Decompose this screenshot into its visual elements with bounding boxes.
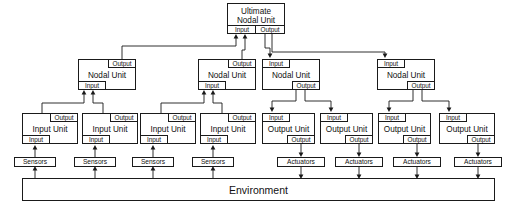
nodal-unit-3-input-port[interactable]: Input (262, 59, 290, 68)
ultimate-nodal-unit-title-line1: Ultimate (228, 7, 284, 16)
output-unit-4[interactable]: Output Unit Input Output (439, 113, 495, 144)
sensors-4[interactable]: Sensors (192, 157, 234, 167)
nodal-unit-2-title: Nodal Unit (199, 71, 255, 80)
ultimate-nodal-unit-title-line2: Nodal Unit (228, 16, 284, 25)
output-unit-3-title: Output Unit (379, 125, 430, 134)
nodal-unit-4-input-port[interactable]: Input (377, 59, 405, 68)
ultimate-nodal-unit[interactable]: Ultimate Nodal Unit Input Output (227, 3, 285, 34)
input-unit-1-output-port[interactable]: Output (50, 113, 78, 122)
output-unit-2-output-port[interactable]: Output (345, 135, 373, 144)
input-unit-3[interactable]: Input Unit Output Input (140, 113, 196, 144)
nodal-unit-4[interactable]: Nodal Unit Input Output (377, 59, 435, 90)
input-unit-3-title: Input Unit (141, 125, 195, 134)
sensors-3[interactable]: Sensors (132, 157, 174, 167)
actuators-3[interactable]: Actuators (393, 157, 441, 167)
output-unit-1[interactable]: Output Unit Input Output (262, 113, 315, 144)
input-unit-1-input-port[interactable]: Input (22, 135, 50, 144)
output-unit-3[interactable]: Output Unit Input Output (378, 113, 431, 144)
input-unit-3-output-port[interactable]: Output (168, 113, 196, 122)
nodal-unit-3[interactable]: Nodal Unit Input Output (262, 59, 320, 90)
input-unit-2-output-port[interactable]: Output (110, 113, 138, 122)
actuators-4[interactable]: Actuators (454, 157, 502, 167)
output-unit-4-input-port[interactable]: Input (439, 113, 467, 122)
actuators-1[interactable]: Actuators (277, 157, 325, 167)
input-unit-3-input-port[interactable]: Input (140, 135, 168, 144)
output-unit-1-output-port[interactable]: Output (287, 135, 315, 144)
output-unit-1-title: Output Unit (263, 125, 314, 134)
input-unit-1[interactable]: Input Unit Output Input (22, 113, 78, 144)
input-unit-2-input-port[interactable]: Input (82, 135, 110, 144)
nodal-unit-1-title: Nodal Unit (79, 71, 135, 80)
ultimate-nodal-unit-output-port[interactable]: Output (255, 25, 285, 34)
nodal-unit-4-title: Nodal Unit (378, 71, 434, 80)
nodal-unit-3-output-port[interactable]: Output (292, 81, 320, 90)
output-unit-2-input-port[interactable]: Input (320, 113, 348, 122)
output-unit-3-input-port[interactable]: Input (378, 113, 406, 122)
input-unit-4-input-port[interactable]: Input (200, 135, 228, 144)
output-unit-2[interactable]: Output Unit Input Output (320, 113, 373, 144)
sensors-2[interactable]: Sensors (74, 157, 116, 167)
environment-label: Environment (23, 184, 494, 196)
output-unit-4-output-port[interactable]: Output (467, 135, 495, 144)
nodal-unit-1[interactable]: Nodal Unit Output Input (78, 59, 136, 90)
input-unit-1-title: Input Unit (23, 125, 77, 134)
input-unit-4-output-port[interactable]: Output (228, 113, 256, 122)
nodal-unit-2-output-port[interactable]: Output (228, 59, 256, 68)
output-unit-1-input-port[interactable]: Input (262, 113, 290, 122)
input-unit-2-title: Input Unit (83, 125, 137, 134)
output-unit-2-title: Output Unit (321, 125, 372, 134)
nodal-unit-3-title: Nodal Unit (263, 71, 319, 80)
input-unit-4[interactable]: Input Unit Output Input (200, 113, 256, 144)
nodal-unit-1-output-port[interactable]: Output (108, 59, 136, 68)
input-unit-2[interactable]: Input Unit Output Input (82, 113, 138, 144)
output-unit-3-output-port[interactable]: Output (403, 135, 431, 144)
nodal-unit-2[interactable]: Nodal Unit Output Input (198, 59, 256, 90)
sensors-1[interactable]: Sensors (14, 157, 56, 167)
output-unit-4-title: Output Unit (440, 125, 494, 134)
actuators-2[interactable]: Actuators (335, 157, 383, 167)
nodal-unit-2-input-port[interactable]: Input (198, 81, 226, 90)
nodal-unit-1-input-port[interactable]: Input (78, 81, 106, 90)
environment-box[interactable]: Environment (22, 178, 495, 201)
ultimate-nodal-unit-input-port[interactable]: Input (227, 25, 257, 34)
nodal-unit-4-output-port[interactable]: Output (407, 81, 435, 90)
input-unit-4-title: Input Unit (201, 125, 255, 134)
architecture-diagram: Ultimate Nodal Unit Input Output Nodal U… (0, 0, 515, 211)
